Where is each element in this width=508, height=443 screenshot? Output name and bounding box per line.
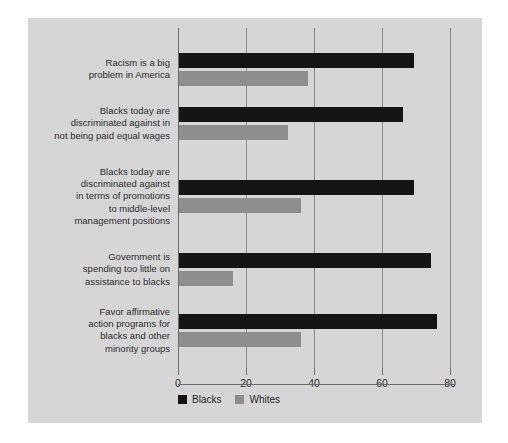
plot-area: 020406080Racism is a big problem in Amer… (178, 28, 450, 368)
tick-mark-80 (450, 368, 451, 375)
bar-whites-4 (179, 332, 301, 347)
x-tick-label: 80 (444, 377, 456, 389)
bar-blacks-0 (179, 53, 414, 68)
tick-mark-0 (178, 368, 179, 375)
bar-blacks-2 (179, 180, 414, 195)
legend-item-blacks[interactable]: Blacks (178, 394, 221, 405)
tick-mark-60 (382, 368, 383, 375)
x-tick-label: 0 (175, 377, 181, 389)
legend-item-whites[interactable]: Whites (235, 394, 280, 405)
category-label-2: Blacks today are discriminated against i… (30, 166, 170, 227)
gridline-80 (450, 28, 451, 368)
bar-whites-2 (179, 198, 301, 213)
x-tick-label: 60 (376, 377, 388, 389)
category-label-0: Racism is a big problem in America (30, 57, 170, 82)
bar-blacks-1 (179, 107, 403, 122)
chart-legend: Blacks Whites (178, 394, 280, 405)
tick-mark-40 (314, 368, 315, 375)
category-label-4: Favor affirmative action programs for bl… (30, 306, 170, 355)
legend-swatch-icon-whites (235, 395, 244, 404)
tick-mark-20 (246, 368, 247, 375)
bar-whites-3 (179, 271, 233, 286)
x-tick-label: 40 (308, 377, 320, 389)
legend-label-whites: Whites (249, 394, 280, 405)
bar-whites-1 (179, 125, 288, 140)
legend-label-blacks: Blacks (192, 394, 221, 405)
x-tick-label: 20 (240, 377, 252, 389)
legend-separator (178, 384, 455, 385)
legend-swatch-icon-blacks (178, 395, 187, 404)
category-label-1: Blacks today are discriminated against i… (30, 105, 170, 142)
category-label-3: Government is spending too little on ass… (30, 251, 170, 288)
chart-panel: 020406080Racism is a big problem in Amer… (28, 18, 482, 423)
bar-blacks-3 (179, 253, 431, 268)
bar-whites-0 (179, 71, 308, 86)
bar-blacks-4 (179, 314, 437, 329)
